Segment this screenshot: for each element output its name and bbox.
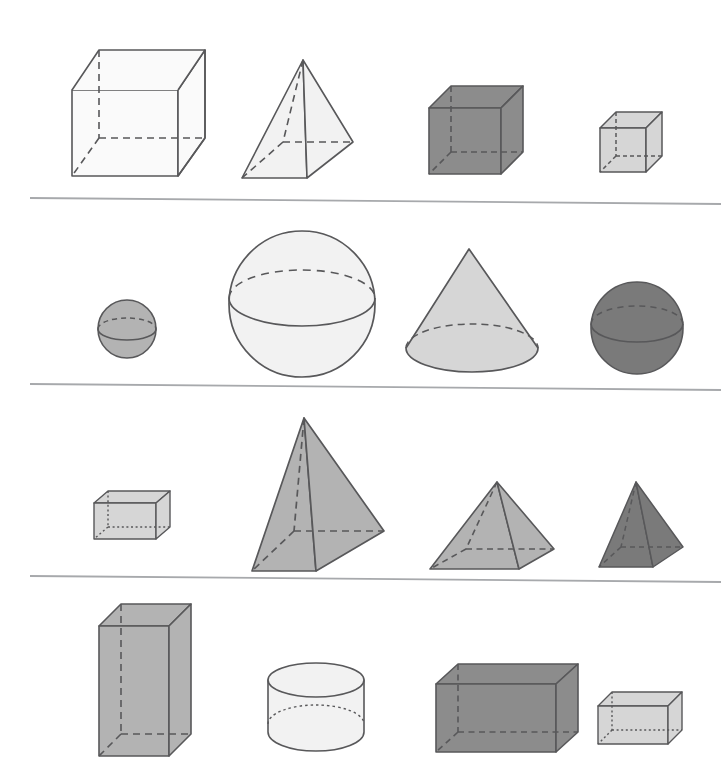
- prism-front-face: [99, 626, 169, 756]
- cube-front-face: [600, 128, 646, 172]
- solids-row-2: [0, 201, 721, 387]
- square-pyramid: [236, 56, 361, 186]
- medium-dark-cube: [425, 82, 530, 182]
- geometric-solids-sheet: [0, 0, 721, 769]
- cylinder-top-face: [268, 663, 364, 697]
- solids-row-4: [0, 580, 721, 769]
- solids-row-3: [0, 387, 721, 580]
- sphere-outline: [229, 231, 375, 377]
- cone: [400, 244, 545, 379]
- cube-front-face: [429, 108, 501, 174]
- prism-front-face: [94, 503, 156, 539]
- solids-row-1: [0, 0, 721, 201]
- wide-dark-prism: [432, 660, 584, 760]
- large-sphere: [224, 226, 380, 382]
- pyramid-face-front-right: [303, 60, 353, 178]
- small-rectangular-prism: [90, 487, 176, 547]
- pyramid-face-front-right: [304, 418, 384, 571]
- dark-sphere: [586, 277, 688, 379]
- pyramid-face-front-left: [242, 60, 307, 178]
- cube-front-face: [72, 90, 178, 176]
- small-sphere: [93, 295, 161, 363]
- small-dark-pyramid: [593, 477, 689, 577]
- tall-rectangular-prism: [95, 600, 200, 762]
- prism-front-face: [436, 684, 556, 752]
- sphere-outline: [591, 282, 683, 374]
- cylinder: [262, 660, 377, 758]
- small-light-cube: [596, 108, 670, 180]
- sphere-outline: [98, 300, 156, 358]
- prism-front-face: [598, 706, 668, 744]
- wide-square-pyramid: [424, 477, 560, 577]
- small-light-prism: [594, 688, 690, 752]
- cone-body: [406, 249, 538, 372]
- large-cube: [68, 42, 213, 187]
- tall-square-pyramid: [246, 413, 392, 581]
